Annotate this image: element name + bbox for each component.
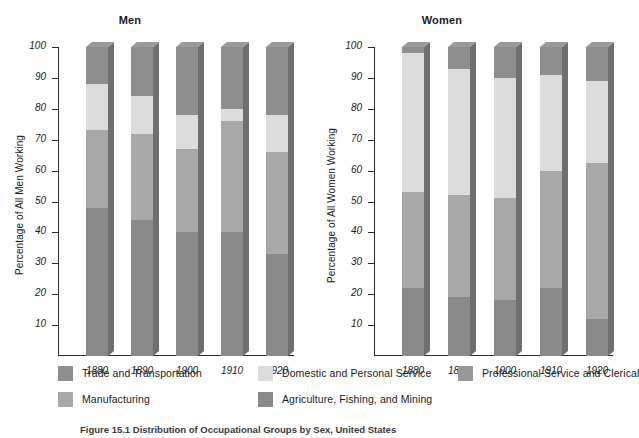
legend-swatch-icon	[258, 392, 273, 407]
bar-segment	[402, 47, 424, 53]
y-axis-tick-label: 100	[16, 40, 46, 51]
bar-segment	[402, 288, 424, 356]
bar-segment	[266, 152, 288, 254]
y-axis-tick	[52, 78, 58, 79]
y-axis-tick-label: 10	[16, 318, 46, 329]
y-axis-tick	[368, 263, 374, 264]
y-axis-tick	[368, 109, 374, 110]
bar-1890: 1890	[448, 47, 470, 356]
bar-segment	[131, 220, 153, 356]
y-axis-tick-label: 90	[16, 71, 46, 82]
legend-swatch-icon	[258, 366, 273, 381]
bar-segment	[176, 232, 198, 356]
y-axis-tick-label: 50	[332, 195, 362, 206]
y-axis-tick-label: 30	[16, 256, 46, 267]
y-axis-tick-label: 80	[332, 102, 362, 113]
legend-item[interactable]: Manufacturing	[58, 388, 150, 410]
bar-segment	[176, 149, 198, 232]
legend-item[interactable]: Domestic and Personal Service	[258, 362, 431, 384]
legend-swatch-icon	[458, 366, 473, 381]
bar-segment	[176, 115, 198, 149]
bar-segment	[86, 208, 108, 356]
y-axis-tick	[368, 202, 374, 203]
y-axis-tick	[52, 232, 58, 233]
y-axis-tick-label: 40	[332, 225, 362, 236]
y-axis-tick	[52, 47, 58, 48]
chart-legend: Trade and TransportationDomestic and Per…	[58, 362, 618, 414]
legend-item[interactable]: Agriculture, Fishing, and Mining	[258, 388, 432, 410]
y-axis-tick-label: 10	[332, 318, 362, 329]
y-axis-tick-label: 70	[16, 133, 46, 144]
bar-side-face	[470, 42, 476, 356]
y-axis-tick-label: 40	[16, 225, 46, 236]
bar-1920: 1920	[586, 47, 608, 356]
bar-segment	[86, 130, 108, 207]
bar-segment	[494, 78, 516, 199]
bar-segment	[586, 81, 608, 163]
bar-1920: 1920	[266, 47, 288, 356]
y-axis-tick	[52, 171, 58, 172]
bar-segment	[131, 96, 153, 133]
legend-label: Trade and Transportation	[82, 367, 202, 379]
legend-row-bottom: ManufacturingAgriculture, Fishing, and M…	[58, 388, 618, 412]
bar-segment	[176, 47, 198, 115]
y-axis-tick	[368, 78, 374, 79]
bar-1910: 1910	[540, 47, 562, 356]
y-axis-tick	[52, 263, 58, 264]
y-axis-tick	[368, 232, 374, 233]
bar-side-face	[108, 42, 114, 356]
legend-swatch-icon	[58, 392, 73, 407]
chart-panel-men: Men Percentage of All Men Working 102030…	[0, 0, 300, 360]
y-axis-tick-label: 20	[16, 287, 46, 298]
y-axis-tick-label: 50	[16, 195, 46, 206]
bar-1880: 1880	[402, 47, 424, 356]
bar-segment	[221, 232, 243, 356]
bar-segment	[266, 254, 288, 356]
bar-segment	[540, 47, 562, 75]
bar-segment	[221, 109, 243, 121]
bar-segment	[494, 300, 516, 356]
bar-segment	[586, 47, 608, 81]
y-axis-tick	[52, 294, 58, 295]
bar-segment	[540, 288, 562, 356]
panel-title-women: Women	[342, 14, 542, 26]
y-axis-tick	[368, 47, 374, 48]
y-axis-tick	[368, 294, 374, 295]
bar-segment	[540, 75, 562, 171]
y-axis-tick-label: 60	[16, 164, 46, 175]
bar-segment	[448, 195, 470, 297]
bar-segment	[221, 47, 243, 109]
panel-title-men: Men	[30, 14, 230, 26]
plot-area-women: 1020304050607080901001880189019001910192…	[384, 47, 612, 356]
bar-segment	[131, 47, 153, 96]
y-axis-tick-label: 30	[332, 256, 362, 267]
legend-item[interactable]: Professional Service and Clerical	[458, 362, 639, 384]
bar-segment	[494, 47, 516, 78]
bar-side-face	[608, 42, 614, 356]
bar-1900: 1900	[176, 47, 198, 356]
plot-area-men: 1020304050607080901001880189019001910192…	[68, 47, 293, 356]
bar-side-face	[288, 42, 294, 356]
bar-side-face	[243, 42, 249, 356]
legend-item[interactable]: Trade and Transportation	[58, 362, 202, 384]
y-axis-tick	[368, 140, 374, 141]
chart-panel-women: Women Percentage of All Women Working 10…	[312, 0, 625, 360]
bar-side-face	[516, 42, 522, 356]
y-axis-tick	[52, 109, 58, 110]
y-axis-tick-label: 60	[332, 164, 362, 175]
y-axis-tick	[368, 325, 374, 326]
figure-caption: Figure 15.1 Distribution of Occupational…	[80, 424, 550, 435]
bar-segment	[586, 163, 608, 319]
bar-side-face	[424, 42, 430, 356]
y-axis-tick	[52, 140, 58, 141]
bar-segment	[86, 47, 108, 84]
bar-segment	[266, 115, 288, 152]
bar-1890: 1890	[131, 47, 153, 356]
bar-segment	[448, 47, 470, 69]
y-axis-tick	[52, 325, 58, 326]
bar-segment	[402, 192, 424, 288]
bar-segment	[540, 171, 562, 288]
legend-label: Professional Service and Clerical	[482, 367, 639, 379]
y-axis-tick	[52, 202, 58, 203]
bar-side-face	[562, 42, 568, 356]
